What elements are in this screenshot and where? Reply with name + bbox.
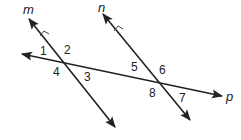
angle-6-label: 6 [159, 64, 166, 76]
label-line-m: m [23, 3, 34, 16]
angle-1-label: 1 [40, 45, 47, 57]
angle-7-label: 7 [179, 92, 186, 104]
label-line-p: p [226, 90, 233, 103]
angle-2-label: 2 [64, 44, 71, 56]
line-p [22, 54, 222, 96]
angle-4-label: 4 [53, 66, 60, 78]
angle-3-label: 3 [84, 71, 91, 83]
lines-svg [0, 0, 241, 140]
label-line-n: n [98, 1, 105, 14]
angle-8-label: 8 [149, 87, 156, 99]
line-m [29, 19, 115, 127]
angle-5-label: 5 [131, 61, 138, 73]
diagram-canvas: m n p 1 2 3 4 5 6 7 8 [0, 0, 241, 140]
line-n [103, 14, 190, 120]
